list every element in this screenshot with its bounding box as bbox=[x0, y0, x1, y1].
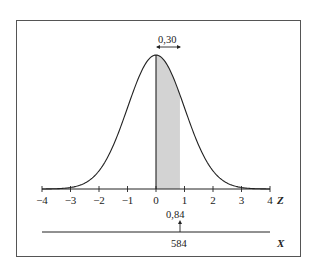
z-tick-label: 1 bbox=[182, 194, 188, 206]
z-tick-label: −1 bbox=[122, 194, 134, 206]
z-tick-label: 4 bbox=[267, 194, 273, 206]
z-axis-label: Z bbox=[276, 194, 284, 206]
z-tick-label: −2 bbox=[93, 194, 105, 206]
double-arrow-icon bbox=[156, 45, 181, 49]
z-tick-label: 0 bbox=[153, 194, 159, 206]
normal-distribution-chart: −4−3−2−101234 Z 0,30 0,84 584 X bbox=[0, 0, 313, 269]
up-arrow-icon bbox=[178, 220, 182, 232]
x-value-label: 584 bbox=[171, 238, 188, 249]
z-tick-label: −3 bbox=[65, 194, 77, 206]
area-label: 0,30 bbox=[158, 34, 176, 45]
x-axis-label: X bbox=[276, 237, 285, 249]
z-tick-label: −4 bbox=[36, 194, 48, 206]
z-tick-label: 2 bbox=[210, 194, 216, 206]
shaded-area bbox=[156, 55, 180, 189]
z-tick-label: 3 bbox=[239, 194, 245, 206]
z-value-label: 0,84 bbox=[166, 209, 185, 220]
